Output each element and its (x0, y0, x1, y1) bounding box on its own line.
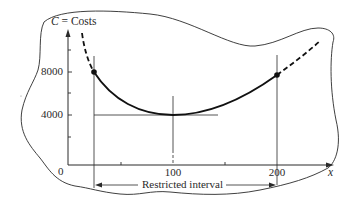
cost-curve-dashed-left (82, 33, 94, 72)
y-axis-title-text: = Costs (59, 15, 97, 27)
restricted-interval-label: Restricted interval (140, 179, 225, 190)
stray-mark (20, 95, 21, 96)
cost-curve-solid (94, 72, 277, 115)
y-axis-variable: C (51, 15, 59, 27)
endpoint-right-dot (274, 72, 280, 78)
origin-label: 0 (58, 166, 64, 177)
cost-curve-diagram: C = Costs 8000 4000 0 100 200 x Restrict… (0, 0, 360, 208)
interval-arrow-left-icon (95, 183, 102, 188)
y-ticks (68, 50, 72, 137)
x-tick-label-200: 200 (262, 167, 292, 178)
endpoint-left-dot (91, 69, 97, 75)
y-axis-title: C = Costs (51, 16, 96, 28)
y-axis-arrow-icon (66, 29, 71, 37)
x-tick-label-100: 100 (158, 167, 188, 178)
y-tick-label-8000: 8000 (23, 66, 63, 77)
x-axis-variable: x (328, 167, 333, 179)
cost-curve-dashed-right (277, 41, 320, 75)
y-tick-label-4000: 4000 (23, 109, 63, 120)
